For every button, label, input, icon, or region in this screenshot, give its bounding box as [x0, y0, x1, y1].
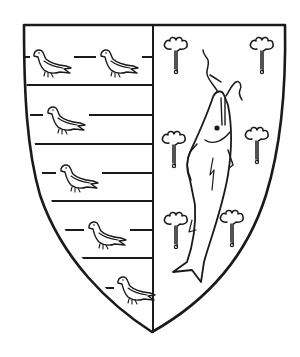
trefoil-icon	[250, 37, 273, 73]
trefoil-icon	[164, 37, 187, 73]
fish-icon	[173, 50, 242, 282]
trefoil-icon	[220, 210, 243, 246]
trefoil-icon	[245, 127, 268, 163]
trefoil-icon	[164, 212, 187, 248]
coat-of-arms-illustration: Heraldic shield (coat of arms), line eng…	[0, 0, 300, 357]
shield-svg	[0, 0, 300, 357]
trefoil-icon	[162, 131, 185, 167]
